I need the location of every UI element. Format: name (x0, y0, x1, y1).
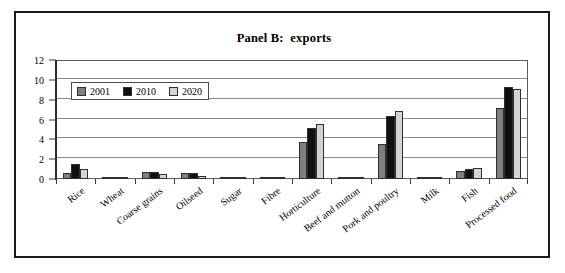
y-axis-tick-label: 0 (39, 174, 44, 185)
bar-group (299, 60, 324, 179)
bar (513, 89, 521, 179)
bar (456, 171, 464, 179)
y-axis-tick-mark (49, 119, 56, 120)
bar (71, 164, 79, 179)
y-axis-tick-label: 2 (39, 154, 44, 165)
legend-item: 2020 (169, 86, 202, 97)
bar (395, 111, 403, 179)
bar (80, 169, 88, 179)
legend-label: 2010 (136, 86, 156, 97)
legend-item: 2010 (123, 86, 156, 97)
bar-group (220, 60, 245, 179)
bar (504, 87, 512, 179)
legend-label: 2020 (182, 86, 202, 97)
y-axis-tick-mark (49, 99, 56, 100)
y-axis-tick-mark (49, 139, 56, 140)
legend-item: 2001 (77, 86, 110, 97)
y-axis-tick-label: 6 (39, 114, 44, 125)
y-axis-tick-label: 10 (34, 74, 44, 85)
figure-root: Panel B: exports 024681012 RiceWheatCoar… (0, 0, 565, 273)
x-axis-label-text: Sugar (218, 185, 243, 208)
bar (496, 108, 504, 179)
chart-title: Panel B: exports (16, 31, 552, 46)
bar-group (63, 60, 88, 179)
bar-group (496, 60, 521, 179)
y-axis-tick-mark (49, 79, 56, 80)
y-axis-tick-label: 8 (39, 94, 44, 105)
bar (150, 172, 158, 179)
bar (299, 142, 307, 179)
bars-layer (56, 60, 528, 179)
bar-group (260, 60, 285, 179)
legend-label: 2001 (90, 86, 110, 97)
legend-swatch-2010 (123, 87, 132, 96)
legend-swatch-2001 (77, 87, 86, 96)
x-axis-label-text: Milk (418, 185, 440, 205)
chart-legend: 200120102020 (71, 82, 209, 100)
x-axis-label-text: Wheat (98, 185, 125, 209)
y-axis: 024681012 (16, 60, 56, 179)
x-axis-label-text: Fibre (259, 185, 282, 206)
bar (465, 169, 473, 179)
bar-group (456, 60, 481, 179)
bar (316, 124, 324, 179)
x-axis-labels: RiceWheatCoarse grainsOilseedSugarFibreH… (56, 183, 556, 263)
figure-frame: Panel B: exports 024681012 RiceWheatCoar… (14, 11, 550, 258)
bar-group (102, 60, 127, 179)
x-axis-label-text: Rice (65, 185, 86, 205)
x-axis-label-text: Fish (459, 185, 479, 204)
y-axis-tick-label: 12 (34, 55, 44, 66)
x-axis-label-text: Oilseed (173, 185, 204, 212)
bar (307, 128, 315, 179)
bar (473, 168, 481, 179)
bar-group (142, 60, 167, 179)
y-axis-tick-label: 4 (39, 134, 44, 145)
y-axis-tick-mark (49, 60, 56, 61)
y-axis-tick-mark (49, 179, 56, 180)
legend-swatch-2020 (169, 87, 178, 96)
y-axis-tick-mark (49, 159, 56, 160)
